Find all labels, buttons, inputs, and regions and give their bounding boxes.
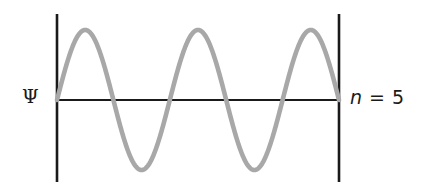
mode-value-text: 5 [392, 86, 405, 108]
standing-wave-figure: Ψ n = 5 [0, 0, 427, 194]
mode-variable-text: n [350, 86, 363, 108]
mode-equals-sign: = [369, 86, 385, 108]
psi-axis-label: Ψ [22, 87, 39, 106]
mode-number-label: n = 5 [350, 88, 405, 107]
